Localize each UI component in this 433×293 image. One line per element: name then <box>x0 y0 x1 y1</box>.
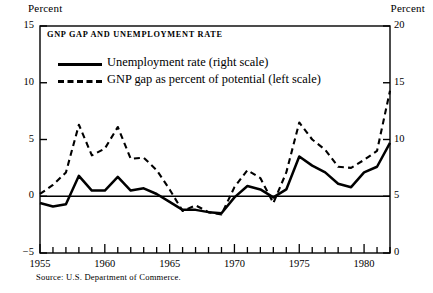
chart-figure: Percent Percent GNP GAP AND UNEMPLOYMENT… <box>0 0 433 293</box>
right-axis-tick-label: 5 <box>394 189 418 200</box>
left-axis-tick-label: −5 <box>12 246 34 257</box>
left-axis-tick-label: 10 <box>12 76 34 87</box>
x-axis-ticks <box>40 244 390 253</box>
right-axis-tick-label: 10 <box>394 133 418 144</box>
x-axis-tick-label: 1955 <box>20 258 60 269</box>
source-note: Source: U.S. Department of Commerce. <box>36 272 181 282</box>
left-axis-tick-label: 0 <box>12 189 34 200</box>
left-axis-ticks <box>40 26 47 253</box>
x-axis-tick-label: 1965 <box>150 258 190 269</box>
right-axis-tick-label: 0 <box>394 246 418 257</box>
plot-frame <box>40 26 390 253</box>
left-axis-tick-label: 5 <box>12 133 34 144</box>
x-axis-tick-label: 1975 <box>279 258 319 269</box>
x-axis-tick-label: 1980 <box>344 258 384 269</box>
x-axis-tick-label: 1960 <box>85 258 125 269</box>
left-axis-tick-label: 15 <box>12 19 34 30</box>
x-axis-tick-label: 1970 <box>214 258 254 269</box>
right-axis-ticks <box>383 26 390 253</box>
series-line-unemployment <box>40 143 390 213</box>
right-axis-tick-label: 15 <box>394 76 418 87</box>
plot-area <box>0 0 433 293</box>
right-axis-tick-label: 20 <box>394 19 418 30</box>
